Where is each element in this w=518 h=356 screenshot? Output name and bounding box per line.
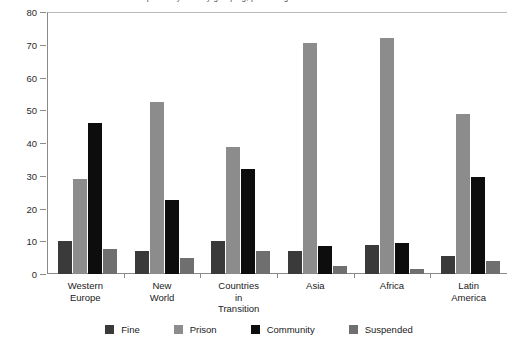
plot-area: 01020304050607080 [47, 12, 507, 274]
y-tick-label: 60 [26, 72, 37, 83]
y-tick-label: 10 [26, 236, 37, 247]
bar [471, 177, 485, 274]
bar [456, 114, 470, 274]
bar [180, 258, 194, 274]
y-tick-label: 0 [32, 269, 37, 280]
y-tick-label: 20 [26, 203, 37, 214]
bar [226, 147, 240, 274]
bar [103, 249, 117, 274]
y-tick-label: 70 [26, 39, 37, 50]
bar-chart: Sentences imposed by country grouping, p… [0, 0, 518, 356]
x-axis-category-label: LatinAmerica [430, 280, 507, 303]
y-tick-mark [40, 143, 46, 144]
x-axis-category-label: CountriesinTransition [200, 280, 277, 315]
legend-item[interactable]: Fine [105, 324, 139, 335]
y-tick-mark [40, 110, 46, 111]
bar [256, 251, 270, 274]
bar [395, 243, 409, 274]
legend-swatch-icon [251, 325, 260, 334]
category-label-line: Africa [354, 280, 431, 292]
y-tick-label: 80 [26, 7, 37, 18]
y-tick-label: 40 [26, 138, 37, 149]
y-tick-mark [40, 78, 46, 79]
x-axis-category-label: Asia [277, 280, 354, 292]
y-axis-line [47, 12, 48, 274]
legend-label: Fine [121, 324, 139, 335]
legend-item[interactable]: Suspended [349, 324, 413, 335]
category-label-line: World [124, 292, 201, 304]
bar [241, 169, 255, 274]
legend-label: Prison [190, 324, 217, 335]
legend-swatch-icon [105, 325, 114, 334]
y-tick-mark [40, 176, 46, 177]
bar [165, 200, 179, 274]
category-label-line: Western [47, 280, 124, 292]
bar [58, 241, 72, 274]
bar [318, 246, 332, 274]
bar [73, 179, 87, 274]
x-tick-mark [354, 274, 355, 278]
category-label-line: Europe [47, 292, 124, 304]
legend-item[interactable]: Prison [174, 324, 217, 335]
y-tick-mark [40, 45, 46, 46]
x-tick-mark [200, 274, 201, 278]
x-tick-mark [277, 274, 278, 278]
category-label-line: Asia [277, 280, 354, 292]
bar [380, 38, 394, 274]
bar [333, 266, 347, 274]
y-tick-label: 50 [26, 105, 37, 116]
y-tick-mark [40, 209, 46, 210]
bar-group [135, 12, 194, 274]
x-tick-mark [430, 274, 431, 278]
legend-label: Community [267, 324, 315, 335]
chart-title: Sentences imposed by country grouping, p… [96, 0, 297, 2]
x-tick-mark [124, 274, 125, 278]
bar-group [365, 12, 424, 274]
x-axis-category-label: WesternEurope [47, 280, 124, 303]
category-label-line: in [200, 292, 277, 304]
category-label-line: Countries [200, 280, 277, 292]
category-label-line: Latin [430, 280, 507, 292]
bar [410, 269, 424, 274]
category-label-line: America [430, 292, 507, 304]
bar-group [288, 12, 347, 274]
y-tick-mark [40, 241, 46, 242]
bar [365, 245, 379, 274]
bar [288, 251, 302, 274]
bar [486, 261, 500, 274]
bar-group [441, 12, 500, 274]
chart-legend: FinePrisonCommunitySuspended [0, 324, 518, 335]
y-tick-label: 30 [26, 170, 37, 181]
bar [150, 102, 164, 274]
bar-group [58, 12, 117, 274]
x-axis-category-label: NewWorld [124, 280, 201, 303]
bar [303, 43, 317, 274]
y-tick-mark [40, 274, 46, 275]
bar [211, 241, 225, 274]
bar [135, 251, 149, 274]
legend-label: Suspended [365, 324, 413, 335]
legend-swatch-icon [349, 325, 358, 334]
bar [88, 123, 102, 274]
bar [441, 256, 455, 274]
category-label-line: Transition [200, 303, 277, 315]
legend-item[interactable]: Community [251, 324, 315, 335]
legend-swatch-icon [174, 325, 183, 334]
bar-group [211, 12, 270, 274]
category-label-line: New [124, 280, 201, 292]
y-tick-mark [40, 12, 46, 13]
x-axis-category-label: Africa [354, 280, 431, 292]
